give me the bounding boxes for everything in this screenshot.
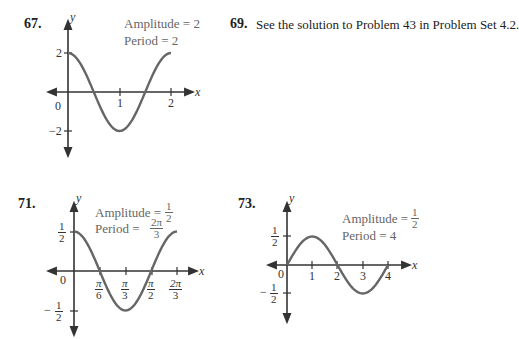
p71-x-axis-label: x [198,264,205,278]
p67-y-axis-label: y [69,10,76,24]
p71-y-axis-label: y [75,191,82,205]
denominator: 2 [148,290,154,301]
p71-y-tick-neg-half: 1 2 [55,300,63,323]
graph-73 [268,203,410,322]
p71-x-tick-2pi-3: 2π 3 [169,278,182,301]
graph-67 [48,21,193,156]
p73-x-tick-2: 2 [334,269,340,283]
p73-x-tick-4: 4 [385,269,391,283]
p71-x-tick-pi-2: π 2 [147,278,155,301]
p67-origin-label: 0 [55,99,61,113]
denominator: 2 [271,294,277,305]
p67-x-tick-2: 2 [168,96,174,110]
denominator: 3 [173,290,179,301]
p73-x-tick-1: 1 [309,269,315,283]
p67-x-axis-label: x [194,85,201,99]
p73-x-tick-3: 3 [360,269,366,283]
denominator: 2 [272,237,278,248]
p73-y-axis-label: y [288,191,295,205]
p73-y-tick-neg-sign: − [260,285,267,300]
p71-y-tick-neg-sign: − [44,303,51,318]
p71-x-tick-pi-3: π 3 [121,278,129,301]
p73-x-axis-label: x [411,258,418,272]
graph-71 [48,203,197,335]
p67-y-tick-neg2: −2 [49,124,62,138]
p73-y-tick-half: 1 2 [271,225,279,248]
p71-origin-label: 0 [60,273,66,287]
denominator: 2 [56,312,62,323]
p73-origin-label: 0 [278,267,284,281]
p71-x-tick-pi-6: π 6 [95,278,103,301]
denominator: 6 [96,290,102,301]
denominator: 2 [59,233,65,244]
p73-y-tick-neg-half: 1 2 [270,282,278,305]
p71-y-tick-half: 1 2 [58,221,66,244]
denominator: 3 [122,290,128,301]
p67-x-tick-1: 1 [117,96,123,110]
p67-y-tick-2: 2 [56,46,62,60]
